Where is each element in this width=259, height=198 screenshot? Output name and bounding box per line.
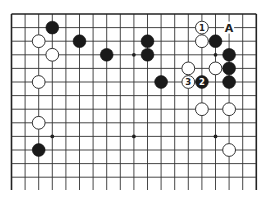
- black-stone-icon: [223, 76, 236, 89]
- black-stone: [73, 35, 86, 48]
- black-stone-icon: [73, 35, 86, 48]
- black-stone: [141, 48, 154, 61]
- black-stone-icon: [209, 35, 222, 48]
- black-stone-icon: [32, 144, 45, 157]
- black-stone: [223, 62, 236, 75]
- move-number: 3: [185, 77, 191, 87]
- black-stone: [155, 76, 168, 89]
- star-point-icon: [132, 53, 136, 57]
- white-stone-icon: [32, 116, 45, 129]
- black-stone-icon: [155, 76, 168, 89]
- white-stone-icon: [223, 144, 236, 157]
- star-point-icon: [132, 135, 136, 139]
- white-stone: [182, 62, 195, 75]
- white-stone-icon: [46, 48, 59, 61]
- black-stone: [141, 35, 154, 48]
- white-stone-icon: [32, 76, 45, 89]
- black-stone-icon: [141, 35, 154, 48]
- black-stone-icon: [46, 21, 59, 34]
- white-stone: [223, 144, 236, 157]
- black-stone: [46, 21, 59, 34]
- white-stone: [46, 48, 59, 61]
- black-stone-icon: [141, 48, 154, 61]
- black-stone-icon: [223, 62, 236, 75]
- black-stone: [209, 35, 222, 48]
- white-stone-icon: [196, 103, 209, 116]
- go-board: 132 A: [0, 0, 259, 198]
- black-stone: 2: [196, 76, 209, 89]
- black-stone: [32, 144, 45, 157]
- white-stone: [196, 103, 209, 116]
- white-stone: [196, 35, 209, 48]
- white-stone-icon: [209, 62, 222, 75]
- star-point-icon: [214, 53, 218, 57]
- white-stone: [209, 62, 222, 75]
- white-stone-icon: [32, 35, 45, 48]
- white-stone: [32, 116, 45, 129]
- white-stone: 1: [196, 21, 209, 34]
- star-point-icon: [214, 135, 218, 139]
- white-stone: [32, 35, 45, 48]
- star-point-icon: [50, 135, 54, 139]
- white-stone-icon: [196, 35, 209, 48]
- white-stone: [223, 103, 236, 116]
- black-stone-icon: [223, 48, 236, 61]
- black-stone: [223, 48, 236, 61]
- white-stone-icon: [223, 103, 236, 116]
- white-stone: 3: [182, 76, 195, 89]
- move-number: 2: [199, 77, 205, 87]
- move-number: 1: [199, 23, 205, 33]
- white-stone: [32, 76, 45, 89]
- point-labels: A: [224, 22, 234, 35]
- white-stone-icon: [182, 62, 195, 75]
- black-stone: [100, 48, 113, 61]
- point-label-a: A: [225, 22, 234, 35]
- black-stone-icon: [100, 48, 113, 61]
- black-stone: [223, 76, 236, 89]
